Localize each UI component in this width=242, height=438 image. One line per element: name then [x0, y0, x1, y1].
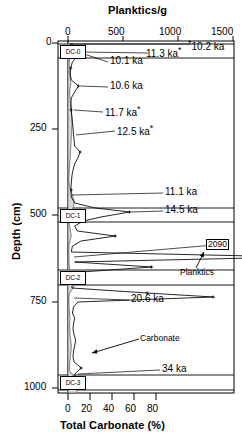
carbonate-callout-arrow [92, 339, 139, 353]
depth-axis-ticks [52, 43, 58, 388]
age-label-12-5-ka: 12.5 ka* [117, 123, 153, 137]
age-label-10-2-ka: *10.2 ka [188, 38, 224, 52]
unit-box-dc-0[interactable]: DC-0 [60, 45, 86, 59]
asterisk-marker: * [137, 104, 141, 114]
unit-box-dc-1[interactable]: DC-1 [60, 209, 86, 223]
planktics-series-label: Planktics [180, 267, 214, 277]
bottom-axis-ticks [68, 393, 156, 400]
age-label-14-5-ka: 14.5 ka [165, 204, 198, 215]
age-label-11-3-ka: 11.3 ka* [146, 45, 182, 59]
annotation-leader-lines [72, 44, 226, 374]
age-label-11-7-ka: 11.7 ka* [105, 104, 141, 118]
age-text: 11.7 ka [105, 107, 137, 118]
unit-box-dc-2[interactable]: DC-2 [60, 271, 86, 285]
age-label-20-6-ka: 20.6 ka [131, 293, 164, 304]
age-label-11-1-ka: 11.1 ka [165, 186, 197, 197]
age-label-34-ka: 34 ka [162, 363, 186, 374]
asterisk-marker: * [150, 123, 154, 133]
unit-box-dc-3[interactable]: DC-3 [60, 376, 86, 390]
age-label-10-6-ka: 10.6 ka [110, 80, 143, 91]
age-label-10-1-ka: 10.1 ka [110, 55, 143, 66]
age-text: 11.3 ka [146, 48, 178, 59]
carbonate-series-label: Carbonate [140, 333, 180, 343]
figure-root: Planktics/g 0 500 1000 1500 Depth (cm) 0… [0, 0, 242, 438]
planktics-markers [69, 44, 242, 370]
age-text: 10.2 ka [192, 41, 225, 52]
asterisk-marker: * [178, 45, 182, 55]
value-callout-2090[interactable]: 2090 [206, 239, 229, 250]
age-text: 12.5 ka [117, 126, 150, 137]
